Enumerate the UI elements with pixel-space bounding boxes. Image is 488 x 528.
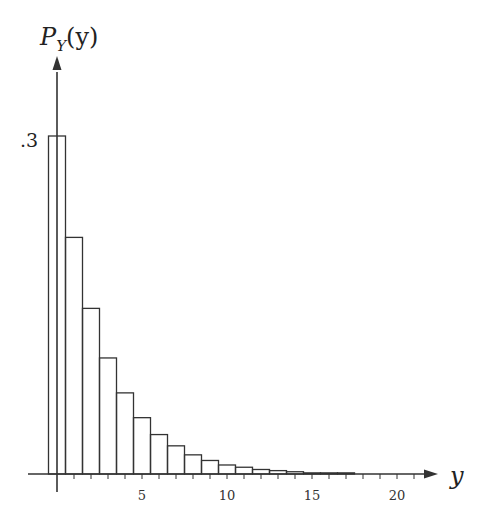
histogram-bar [168,446,185,474]
x-tick-labels: 5101520 [138,488,405,503]
histogram-bar [66,237,83,474]
x-tick-label: 5 [138,488,146,503]
histogram-bar [83,308,100,474]
x-axis-label: y [449,462,464,490]
x-tick-label: 10 [219,488,236,503]
histogram-chart: .3 PY(y) y 5101520 [0,0,488,528]
histogram-bars [49,136,355,474]
x-tick-label: 20 [389,488,406,503]
histogram-bar [219,465,236,474]
x-tick-label: 15 [304,488,321,503]
y-axis-label: PY(y) [39,23,98,55]
x-axis-arrow-icon [424,470,438,479]
y-tick-label: .3 [20,129,38,151]
histogram-bar [100,358,117,474]
histogram-bar [151,435,168,474]
histogram-bar [236,467,253,474]
histogram-bar [134,418,151,474]
histogram-bar [202,460,219,474]
histogram-bar [185,455,202,474]
histogram-bar [117,393,134,474]
y-axis-arrow-icon [53,56,62,70]
